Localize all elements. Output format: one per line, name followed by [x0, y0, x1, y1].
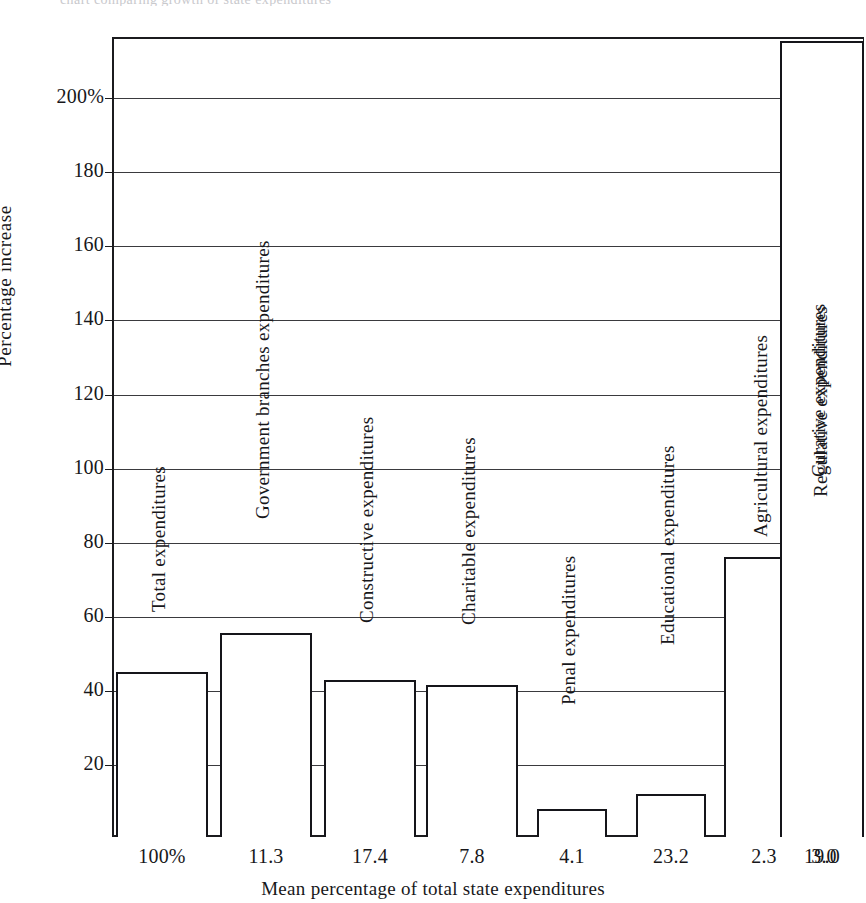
- x-axis-label: 2.3: [751, 845, 777, 868]
- bar[interactable]: [537, 809, 607, 837]
- y-axis-label-200: 200%: [57, 85, 104, 108]
- bar-label: Charitable expenditures: [458, 437, 480, 625]
- x-axis-label: 100%: [138, 845, 185, 868]
- x-axis-label: 7.8: [459, 845, 485, 868]
- x-axis-tick-labels: 100%11.317.47.84.123.22.33.019.0: [112, 845, 864, 875]
- y-axis-label-20: 20: [84, 751, 104, 774]
- bar[interactable]: [636, 794, 706, 837]
- bar-chart: chart comparing growth of state expendit…: [0, 0, 866, 903]
- y-axis-label-40: 40: [84, 677, 104, 700]
- bars-layer: Total expendituresGovernment branches ex…: [112, 37, 864, 837]
- y-axis-title: Percentage increase: [0, 205, 16, 367]
- bar-label: Total expenditures: [148, 466, 170, 612]
- x-axis-title: Mean percentage of total state expenditu…: [0, 878, 866, 900]
- x-axis-label: 4.1: [559, 845, 585, 868]
- x-axis-label: 17.4: [352, 845, 388, 868]
- x-axis-label: 23.2: [653, 845, 689, 868]
- y-axis-label-140: 140: [73, 307, 104, 330]
- bar-label: Government branches expenditures: [252, 240, 274, 519]
- bar-label: Educational expenditures: [657, 445, 679, 645]
- y-axis-label-100: 100: [73, 455, 104, 478]
- y-axis-label-60: 60: [84, 603, 104, 626]
- y-axis-tick-column: Percentage increase 200%1801601401201008…: [0, 37, 104, 837]
- bar[interactable]: [780, 41, 864, 837]
- bar[interactable]: [220, 633, 312, 837]
- clipped-top-caption: chart comparing growth of state expendit…: [60, 0, 580, 6]
- y-axis-label-180: 180: [73, 159, 104, 182]
- bar-label: Agricultural expenditures: [750, 335, 772, 537]
- y-axis-label-80: 80: [84, 529, 104, 552]
- y-axis-label-160: 160: [73, 233, 104, 256]
- y-axis-label-120: 120: [73, 381, 104, 404]
- x-axis-label: 11.3: [248, 845, 283, 868]
- bar[interactable]: [116, 672, 208, 837]
- bar-label: Constructive expenditures: [356, 417, 378, 623]
- bar[interactable]: [324, 680, 416, 837]
- bar[interactable]: [426, 685, 518, 837]
- x-axis-label: 19.0: [804, 845, 840, 868]
- bar-label: Penal expenditures: [558, 556, 580, 705]
